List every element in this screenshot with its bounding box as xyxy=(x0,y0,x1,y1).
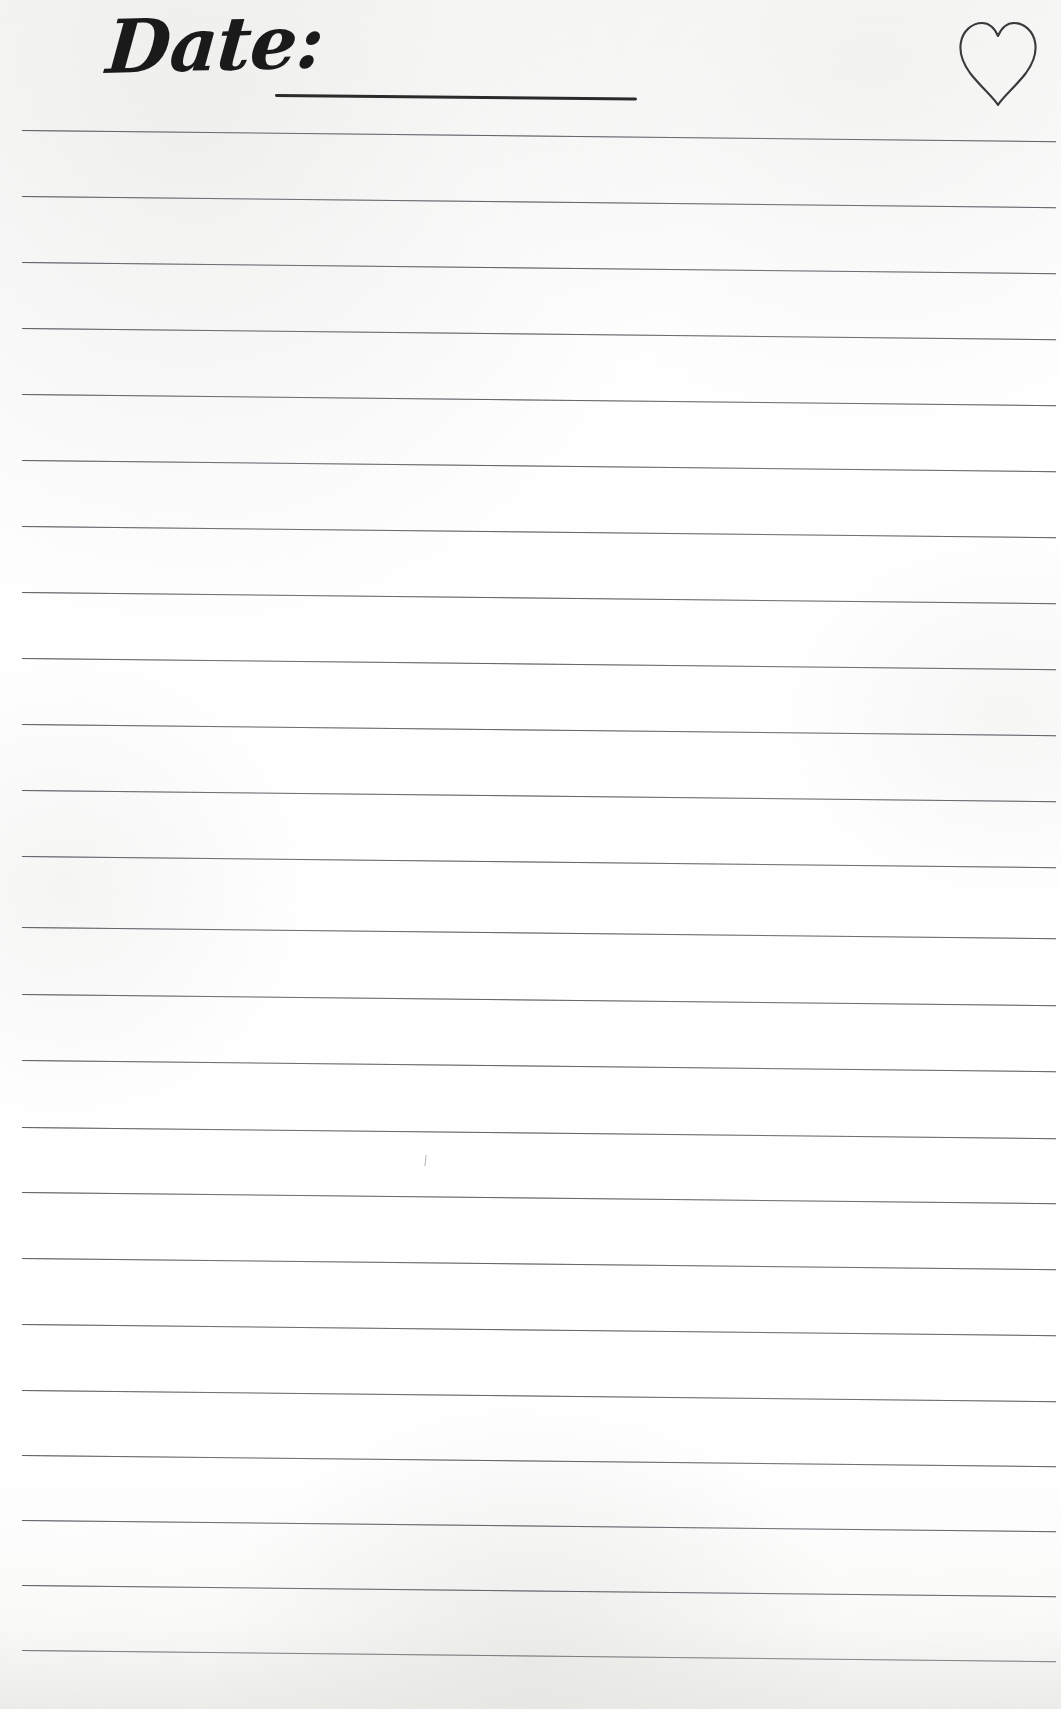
writing-line[interactable] xyxy=(22,1650,1056,1662)
pencil-tick-mark xyxy=(424,1155,426,1166)
writing-line[interactable] xyxy=(22,130,1056,142)
writing-line[interactable] xyxy=(22,460,1056,472)
writing-line[interactable] xyxy=(22,262,1056,274)
writing-line[interactable] xyxy=(22,927,1056,939)
writing-line[interactable] xyxy=(22,1520,1056,1532)
writing-line[interactable] xyxy=(22,856,1056,868)
ruled-lines-area xyxy=(0,0,1061,1709)
writing-line[interactable] xyxy=(22,328,1056,340)
writing-line[interactable] xyxy=(22,1585,1056,1597)
writing-line[interactable] xyxy=(22,1258,1056,1270)
writing-line[interactable] xyxy=(22,1324,1056,1336)
writing-line[interactable] xyxy=(22,394,1056,406)
journal-page: Date: xyxy=(0,0,1061,1709)
writing-line[interactable] xyxy=(22,658,1056,670)
writing-line[interactable] xyxy=(22,790,1056,802)
writing-line[interactable] xyxy=(22,196,1056,208)
writing-line[interactable] xyxy=(22,1060,1056,1072)
writing-line[interactable] xyxy=(22,1455,1056,1467)
writing-line[interactable] xyxy=(22,526,1056,538)
writing-line[interactable] xyxy=(22,1192,1056,1204)
writing-line[interactable] xyxy=(22,1390,1056,1402)
writing-line[interactable] xyxy=(22,994,1056,1006)
writing-line[interactable] xyxy=(22,724,1056,736)
writing-line[interactable] xyxy=(22,1127,1056,1139)
writing-line[interactable] xyxy=(22,592,1056,604)
